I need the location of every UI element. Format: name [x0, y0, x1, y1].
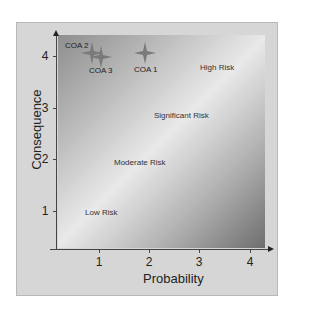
y-tick [53, 211, 57, 212]
x-tick-label: 4 [245, 255, 255, 269]
x-axis-label: Probability [143, 271, 204, 286]
y-axis-arrow-icon [53, 30, 59, 36]
region-label-low: Low Risk [85, 208, 117, 217]
x-tick-label: 2 [144, 255, 154, 269]
y-tick [53, 108, 57, 109]
y-axis-label: Consequence [29, 85, 44, 175]
region-label-significant: Significant Risk [154, 111, 209, 120]
x-tick [199, 249, 200, 253]
y-axis [56, 35, 57, 250]
y-tick-label: 4 [40, 49, 50, 63]
coa3-label: COA 3 [89, 66, 113, 75]
coa1-label: COA 1 [134, 65, 158, 74]
x-axis [50, 249, 270, 250]
x-tick-label: 3 [194, 255, 204, 269]
region-label-moderate: Moderate Risk [114, 158, 166, 167]
x-tick [149, 249, 150, 253]
coa3-star-icon [90, 46, 112, 68]
x-tick [99, 249, 100, 253]
x-tick [250, 249, 251, 253]
region-label-high: High Risk [200, 63, 234, 72]
y-tick [53, 159, 57, 160]
coa2-label: COA 2 [65, 41, 89, 50]
x-axis-arrow-icon [268, 246, 274, 252]
coa1-star-icon [134, 42, 156, 64]
x-tick-label: 1 [94, 255, 104, 269]
y-tick [53, 56, 57, 57]
y-tick-label: 1 [40, 204, 50, 218]
